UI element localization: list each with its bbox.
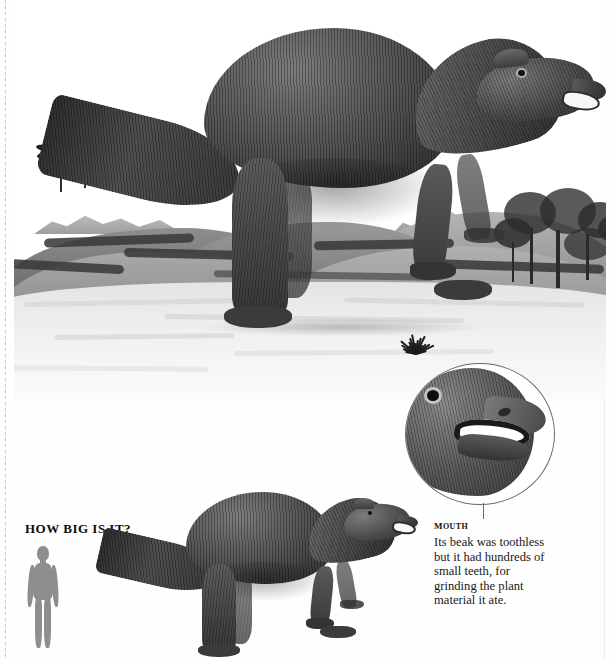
hadrosaur-scale-figure (88, 486, 388, 656)
human-scale-figure (24, 546, 62, 650)
callout-line: grinding the plant (434, 579, 574, 594)
main-illustration (14, 0, 606, 400)
callout-title: Mouth (434, 517, 574, 533)
human-right-leg (44, 598, 51, 648)
dinosaur-hind-leg (232, 158, 288, 318)
scale-dinosaur-hind-foot (198, 644, 240, 657)
closeup-eye (427, 390, 439, 401)
scale-dinosaur-hind-leg (202, 564, 236, 652)
mouth-callout: Mouth Its beak was toothless but it had … (434, 517, 574, 608)
inset-circle-frame (405, 363, 555, 505)
scale-dinosaur-eye (368, 511, 372, 515)
callout-line: small teeth, for (434, 564, 574, 579)
callout-body: Its beak was toothless but it had hundre… (434, 535, 574, 608)
callout-line: material it ate. (434, 593, 574, 608)
scale-dinosaur-fore-foot (320, 626, 356, 638)
book-page: Mouth Its beak was toothless but it had … (0, 0, 613, 660)
dinosaur-hind-foot (224, 306, 292, 328)
dinosaur-hand (410, 262, 456, 280)
human-left-leg (35, 598, 42, 648)
dinosaur-fore-foot (434, 280, 492, 300)
tree-trunk (586, 234, 589, 280)
callout-line: but it had hundreds of (434, 550, 574, 565)
human-torso (33, 563, 53, 600)
dinosaur-far-hand (464, 228, 504, 243)
hadrosaur-main-figure (24, 18, 584, 338)
dinosaur-eye (518, 70, 525, 76)
scale-dinosaur-crest (354, 498, 374, 509)
left-margin-dotted-rule (5, 0, 6, 660)
mouth-closeup-inset (405, 363, 555, 505)
callout-line: Its beak was toothless (434, 535, 574, 550)
scale-dinosaur-far-hand (340, 600, 364, 609)
